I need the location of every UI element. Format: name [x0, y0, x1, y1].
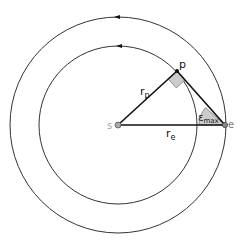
label-r-e: re: [166, 127, 176, 142]
right-angle-marker: [168, 71, 185, 88]
diagram-svg: s p e rp re εmax: [0, 0, 243, 245]
label-s: s: [107, 120, 112, 131]
point-s: [115, 122, 121, 128]
label-r-p: rp: [140, 85, 150, 100]
point-e: [222, 122, 227, 127]
inner-orbit-arrow-icon: [116, 44, 122, 48]
outer-orbit-arrow-icon: [114, 15, 120, 19]
label-p: p: [179, 58, 186, 71]
elongation-diagram: s p e rp re εmax: [0, 0, 243, 245]
label-e: e: [228, 119, 234, 130]
